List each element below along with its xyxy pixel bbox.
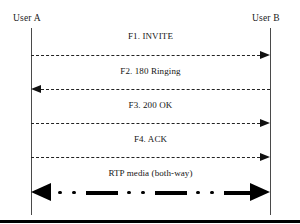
message-label-f1: F1. INVITE: [31, 31, 270, 41]
message-line-f1: [31, 55, 260, 56]
message-line-f3: [31, 123, 260, 124]
message-label-f3: F3. 200 OK: [31, 100, 270, 110]
message-line-f4: [31, 157, 260, 158]
rtp-dot: [141, 191, 145, 195]
actor-label-user-b: User B: [252, 13, 280, 23]
rtp-dot: [72, 191, 76, 195]
rtp-dash: [224, 191, 250, 195]
arrow-left-icon-rtp: [31, 183, 51, 201]
rtp-dot: [58, 191, 62, 195]
message-label-rtp: RTP media (both-way): [31, 168, 270, 178]
rtp-dot: [210, 191, 214, 195]
arrow-right-icon-f4: [260, 153, 270, 161]
sequence-diagram: User A User B F1. INVITE F2. 180 Ringing…: [0, 0, 300, 224]
rtp-dot: [127, 191, 131, 195]
bottom-rule: [0, 220, 300, 223]
message-label-f4: F4. ACK: [31, 134, 270, 144]
actor-label-user-a: User A: [13, 13, 41, 23]
arrow-right-icon-f3: [260, 119, 270, 127]
arrow-right-icon-rtp: [250, 183, 270, 201]
rtp-dash: [86, 191, 118, 195]
arrow-left-icon-f2: [31, 85, 41, 93]
message-label-f2: F2. 180 Ringing: [31, 66, 270, 76]
arrow-right-icon-f1: [260, 51, 270, 59]
message-line-f2: [41, 89, 270, 90]
rtp-dash: [155, 191, 187, 195]
rtp-dot: [196, 191, 200, 195]
lifeline-user-b: [270, 28, 271, 215]
